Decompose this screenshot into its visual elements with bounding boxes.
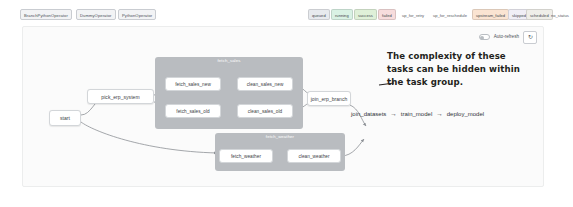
legend-state-up-for-reschedule[interactable]: up_for_reschedule	[429, 9, 471, 20]
task-node-join-erp-branch[interactable]: join_erp_branch	[307, 91, 351, 106]
task-node-clean-sales-new[interactable]: clean_sales_new	[237, 77, 293, 91]
annotation-callout: The complexity of these tasks can be hid…	[387, 50, 555, 89]
task-group-fetch-sales[interactable]: fetch_sales	[155, 57, 303, 129]
annotation-line-3: the task group.	[387, 76, 555, 89]
chain-arrow-icon-1: →	[390, 110, 397, 117]
legend-operator-branchpython[interactable]: BranchPythonOperator	[20, 9, 72, 20]
task-group-fetch-weather-title: fetch_weather	[215, 135, 345, 139]
task-node-clean-weather[interactable]: clean_weather	[287, 149, 341, 163]
annotation-line-1: The complexity of these	[387, 50, 555, 63]
task-node-fetch-sales-new[interactable]: fetch_sales_new	[165, 77, 221, 91]
task-node-train-model[interactable]: train_model	[401, 111, 432, 117]
task-node-clean-sales-old[interactable]: clean_sales_old	[237, 104, 293, 118]
legend-state-queued[interactable]: queued	[308, 9, 330, 20]
legend-state-upstream-failed[interactable]: upstream_failed	[472, 9, 509, 20]
task-node-deploy-model[interactable]: deploy_model	[447, 111, 484, 117]
legend-row: BranchPythonOperator DummyOperator Pytho…	[0, 9, 562, 22]
task-node-start[interactable]: start	[49, 110, 81, 126]
chain-arrow-icon-2: →	[436, 110, 443, 117]
legend-operator-python[interactable]: PythonOperator	[118, 9, 156, 20]
task-node-join-datasets[interactable]: join_datasets	[351, 111, 386, 117]
task-node-fetch-sales-old[interactable]: fetch_sales_old	[165, 104, 221, 118]
legend-state-running[interactable]: running	[331, 9, 353, 20]
task-node-fetch-weather[interactable]: fetch_weather	[219, 149, 273, 163]
downstream-chain: join_datasets → train_model → deploy_mod…	[351, 110, 484, 117]
legend-state-success[interactable]: success	[354, 9, 377, 20]
task-node-pick-erp-system[interactable]: pick_erp_system	[87, 89, 154, 104]
legend-state-up-for-retry[interactable]: up_for_retry	[398, 9, 428, 20]
legend-state-failed[interactable]: failed	[378, 9, 396, 20]
legend-state-no-status[interactable]: no_status	[547, 9, 573, 20]
annotation-line-2: tasks can be hidden within	[387, 63, 555, 76]
legend-operator-dummy[interactable]: DummyOperator	[76, 9, 116, 20]
task-group-fetch-sales-title: fetch_sales	[155, 59, 303, 63]
